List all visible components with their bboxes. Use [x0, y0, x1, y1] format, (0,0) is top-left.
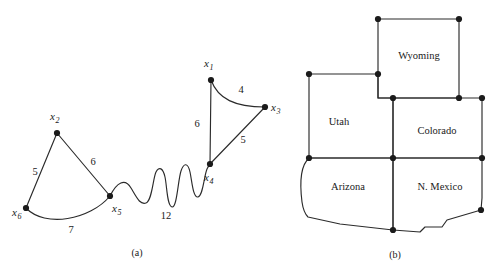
vertex-label-x3: x3	[270, 101, 280, 116]
caption-panel-b: (b)	[389, 249, 401, 261]
vertex-label-x5: x5	[111, 202, 121, 217]
map-corner-node	[390, 227, 396, 233]
vertex-x6	[23, 205, 29, 211]
region-label-arizona: Arizona	[331, 181, 365, 192]
edge-x2-x6	[26, 133, 57, 208]
edge-x6-x5	[26, 196, 110, 219]
map-corner-node	[306, 71, 312, 77]
map-corner-node	[456, 95, 462, 101]
map-corner-node	[390, 155, 396, 161]
vertex-x5	[107, 193, 113, 199]
vertex-x3	[262, 104, 268, 110]
region-label-colorado: Colorado	[417, 125, 456, 136]
vertex-x2	[54, 130, 60, 136]
edge-weight-x2-x6: 5	[32, 166, 37, 177]
edge-weight-x5-x4: 12	[161, 210, 172, 221]
border-utah	[309, 74, 393, 158]
map-corner-node	[375, 71, 381, 77]
panel-a-weighted-graph: x1 x2 x3 x4 x5 x6 5 6 7 12 6 4 5 (a)	[11, 57, 280, 259]
vertex-label-x4: x4	[203, 171, 213, 186]
map-corner-node	[306, 155, 312, 161]
edge-weight-x3-x4: 5	[240, 134, 245, 145]
edge-x1-x4	[210, 80, 211, 164]
edge-weight-x6-x5: 7	[68, 224, 73, 235]
caption-panel-a: (a)	[131, 247, 142, 259]
border-new-mexico	[393, 158, 482, 232]
vertex-x1	[208, 77, 214, 83]
map-corner-node	[375, 16, 381, 22]
edge-x5-x4-squiggle	[110, 164, 210, 207]
panel-b-state-map: Wyoming Utah Colorado Arizona N. Mexico …	[301, 16, 485, 261]
map-corner-node	[479, 155, 485, 161]
edge-weight-x1-x3: 4	[238, 84, 244, 95]
vertex-x4	[207, 161, 213, 167]
textbook-figure: x1 x2 x3 x4 x5 x6 5 6 7 12 6 4 5 (a)	[0, 0, 498, 280]
region-label-wyoming: Wyoming	[398, 50, 440, 61]
map-corner-node	[479, 95, 485, 101]
region-label-utah: Utah	[329, 116, 350, 127]
edge-x3-x4	[210, 107, 265, 164]
vertex-label-x1: x1	[203, 57, 213, 72]
edge-weight-x1-x4: 6	[194, 118, 199, 129]
border-arizona	[301, 158, 393, 230]
edge-x2-x5	[57, 133, 110, 196]
vertex-label-x6: x6	[11, 206, 21, 221]
map-corner-node	[390, 95, 396, 101]
vertex-label-x2: x2	[49, 110, 59, 125]
map-corner-node	[478, 207, 484, 213]
figure-canvas: x1 x2 x3 x4 x5 x6 5 6 7 12 6 4 5 (a)	[0, 0, 498, 280]
edge-weight-x2-x5: 6	[90, 156, 95, 167]
region-label-new-mexico: N. Mexico	[418, 181, 463, 192]
map-corner-node	[456, 16, 462, 22]
